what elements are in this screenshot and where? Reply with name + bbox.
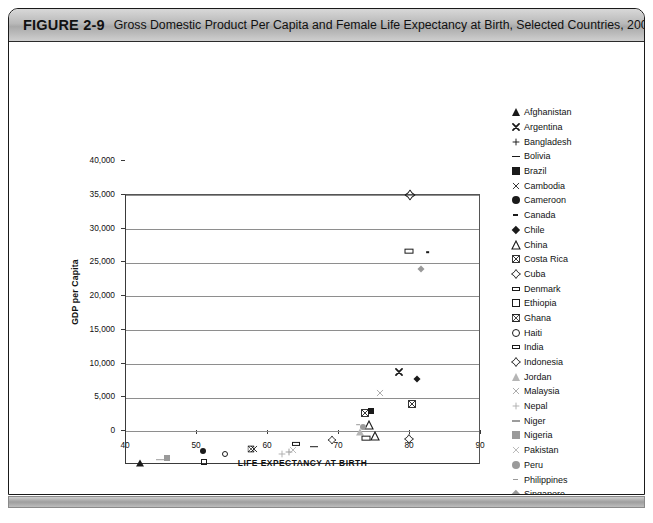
- data-point: [404, 434, 414, 444]
- data-point: [289, 446, 297, 454]
- gridline: [126, 364, 479, 365]
- data-point: [415, 377, 420, 382]
- legend-item[interactable]: Indonesia: [509, 355, 645, 370]
- legend-marker-icon: [509, 150, 522, 163]
- y-tick-label: 35,000: [9, 189, 115, 199]
- legend-item-label: Indonesia: [524, 357, 563, 367]
- legend-item-label: Nigeria: [524, 430, 553, 440]
- legend-item[interactable]: Singapore: [509, 487, 645, 495]
- figure-root: FIGURE 2-9 Gross Domestic Product Per Ca…: [0, 0, 653, 523]
- legend-item-label: Argentina: [524, 122, 563, 132]
- legend-item[interactable]: Bolivia: [509, 149, 645, 164]
- legend-item[interactable]: Ghana: [509, 311, 645, 326]
- data-point: [404, 249, 413, 254]
- gridline: [126, 330, 479, 331]
- y-tick-label: 0: [9, 425, 115, 435]
- data-point: [360, 424, 366, 430]
- legend-item[interactable]: Cambodia: [509, 178, 645, 193]
- legend-item-label: Cuba: [524, 269, 546, 279]
- data-point: [200, 448, 206, 454]
- figure-body: GDP per Capita 05,00010,00015,00020,0002…: [9, 43, 644, 494]
- legend-item[interactable]: Malaysia: [509, 384, 645, 399]
- legend-item-label: Canada: [524, 210, 556, 220]
- figure-header: FIGURE 2-9 Gross Domestic Product Per Ca…: [9, 9, 644, 42]
- data-point: [426, 252, 430, 254]
- data-point: [310, 446, 318, 448]
- legend-item-label: Denmark: [524, 284, 561, 294]
- y-tick-label: 25,000: [9, 256, 115, 266]
- data-point: [361, 436, 370, 441]
- legend-item[interactable]: Costa Rica: [509, 252, 645, 267]
- legend-item-label: Jordan: [524, 372, 552, 382]
- figure-number: FIGURE 2-9: [23, 17, 105, 33]
- legend-marker-icon: [509, 326, 522, 339]
- data-point: [356, 424, 360, 426]
- legend-item[interactable]: Afghanistan: [509, 105, 645, 120]
- legend-marker-icon: [509, 194, 522, 207]
- legend-marker-icon: [509, 106, 522, 119]
- legend-marker-icon: [509, 282, 522, 295]
- legend-item-label: Brazil: [524, 166, 547, 176]
- legend-item-label: Costa Rica: [524, 254, 568, 264]
- legend-marker-icon: [509, 444, 522, 457]
- legend-marker-icon: [509, 209, 522, 222]
- legend-item[interactable]: Canada: [509, 208, 645, 223]
- legend-item[interactable]: Bangladesh: [509, 134, 645, 149]
- legend-marker-icon: [509, 135, 522, 148]
- legend-item[interactable]: India: [509, 340, 645, 355]
- legend-item-label: Chile: [524, 225, 545, 235]
- legend-marker-icon: [509, 356, 522, 369]
- data-point: [222, 451, 228, 457]
- legend-item[interactable]: Argentina: [509, 120, 645, 135]
- y-tick-label: 20,000: [9, 290, 115, 300]
- legend-marker-icon: [509, 488, 522, 495]
- data-point: [408, 400, 416, 408]
- y-tick-label: 15,000: [9, 324, 115, 334]
- legend-marker-icon: [509, 223, 522, 236]
- legend-item-label: Nepal: [524, 401, 548, 411]
- legend-item[interactable]: Niger: [509, 413, 645, 428]
- legend-item-label: Niger: [524, 416, 546, 426]
- legend-item[interactable]: Denmark: [509, 281, 645, 296]
- legend-item[interactable]: Brazil: [509, 164, 645, 179]
- legend-item-label: Ghana: [524, 313, 551, 323]
- gridline: [126, 263, 479, 264]
- x-tick-mark: [480, 430, 481, 434]
- legend-item-label: Cambodia: [524, 181, 565, 191]
- legend-item-label: Pakistan: [524, 445, 559, 455]
- legend-item-label: Malaysia: [524, 386, 560, 396]
- legend-marker-icon: [509, 341, 522, 354]
- legend-item[interactable]: Cameroon: [509, 193, 645, 208]
- legend-item-label: India: [524, 342, 544, 352]
- legend-item[interactable]: Cuba: [509, 267, 645, 282]
- gridline: [126, 229, 479, 230]
- legend-item-label: Haiti: [524, 328, 542, 338]
- legend-item[interactable]: Haiti: [509, 325, 645, 340]
- legend-item-label: Philippines: [524, 475, 568, 485]
- legend-item[interactable]: Ethiopia: [509, 296, 645, 311]
- figure-frame: FIGURE 2-9 Gross Domestic Product Per Ca…: [8, 8, 645, 495]
- legend-item[interactable]: Jordan: [509, 369, 645, 384]
- legend-item[interactable]: Philippines: [509, 472, 645, 487]
- legend-item[interactable]: Peru: [509, 458, 645, 473]
- legend-item-label: Cameroon: [524, 195, 566, 205]
- data-point: [278, 450, 286, 458]
- legend-marker-icon: [509, 165, 522, 178]
- y-tick-label: 40,000: [9, 155, 115, 165]
- legend: AfghanistanArgentinaBangladeshBoliviaBra…: [509, 105, 645, 495]
- legend-marker-icon: [509, 473, 522, 486]
- legend-item[interactable]: Chile: [509, 223, 645, 238]
- data-point: [418, 267, 423, 272]
- legend-item[interactable]: China: [509, 237, 645, 252]
- plot-area: [125, 194, 480, 464]
- legend-item-label: Afghanistan: [524, 107, 572, 117]
- legend-item[interactable]: Pakistan: [509, 443, 645, 458]
- legend-item[interactable]: Nigeria: [509, 428, 645, 443]
- legend-marker-icon: [509, 385, 522, 398]
- legend-marker-icon: [509, 267, 522, 280]
- legend-marker-icon: [509, 458, 522, 471]
- gridline: [126, 296, 479, 297]
- gridline: [126, 431, 479, 432]
- legend-item-label: Bangladesh: [524, 137, 572, 147]
- legend-item[interactable]: Nepal: [509, 399, 645, 414]
